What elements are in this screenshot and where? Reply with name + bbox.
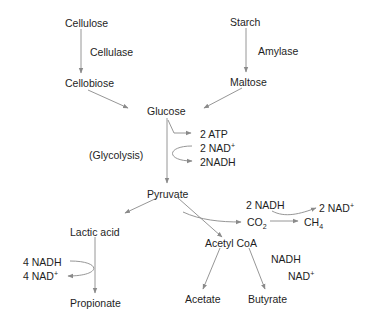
cofactor-2nadh: 2NADH: [200, 156, 236, 168]
node-acetyl-coa: Acetyl CoA: [205, 237, 257, 249]
node-cellobiose: Cellobiose: [65, 77, 114, 89]
node-starch: Starch: [230, 16, 261, 28]
node-cellulose: Cellulose: [65, 17, 108, 29]
cofactor-2nad: 2 NAD+: [200, 142, 235, 154]
node-butyrate: Butyrate: [248, 293, 287, 305]
arrow-cellobiose-glucose: [88, 90, 128, 108]
arrow-acetylcoa-acetate: [203, 248, 220, 289]
cofactor-2atp: 2 ATP: [200, 128, 228, 140]
node-propionate: Propionate: [70, 297, 121, 309]
node-labels: Cellulose Cellulase Cellobiose Starch Am…: [23, 16, 354, 309]
cofactor-nadh-butyrate: NADH: [271, 253, 301, 265]
pathway-diagram: Cellulose Cellulase Cellobiose Starch Am…: [0, 0, 369, 325]
arrow-nad-nadh-glycolysis: [173, 146, 193, 161]
node-acetate: Acetate: [185, 293, 221, 305]
arrow-acetylcoa-butyrate: [249, 248, 265, 289]
enzyme-cellulase: Cellulase: [90, 46, 133, 58]
arrow-maltose-glucose: [204, 88, 242, 108]
arrow-glucose-atp: [168, 120, 191, 133]
cofactor-4nad: 4 NAD+: [23, 270, 58, 282]
cofactor-nad-butyrate: NAD+: [288, 270, 314, 282]
cofactor-2nadh-methane: 2 NADH: [246, 199, 285, 211]
node-co2: CO2: [247, 216, 267, 230]
enzyme-amylase: Amylase: [258, 45, 298, 57]
node-maltose: Maltose: [230, 76, 267, 88]
node-ch4: CH4: [304, 216, 323, 230]
cofactor-2nad-methane: 2 NAD+: [319, 202, 354, 214]
arrow-pyruvate-lactic: [125, 198, 157, 213]
process-glycolysis: (Glycolysis): [89, 149, 143, 161]
node-glucose: Glucose: [147, 105, 186, 117]
node-lactic-acid: Lactic acid: [70, 226, 120, 238]
cofactor-4nadh: 4 NADH: [23, 256, 62, 268]
node-pyruvate: Pyruvate: [147, 188, 189, 200]
arrow-pyruvate-co2: [183, 212, 241, 222]
arrow-nadh-nad-propionate: [68, 261, 94, 276]
